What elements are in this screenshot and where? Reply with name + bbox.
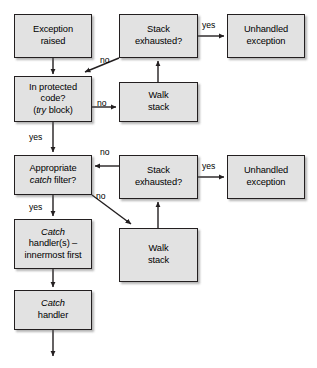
node-catch-handlers-innermost: Catchhandler(s) –innermost first <box>14 219 92 269</box>
node-label: Unhandledexception <box>242 24 290 47</box>
node-exception-raised: Exceptionraised <box>14 14 92 58</box>
node-stack-exhausted-1: Stackexhausted? <box>119 14 198 58</box>
edge-label-no-stack2-filter: no <box>100 148 110 157</box>
edge-label-yes-filter-catch: yes <box>29 203 42 212</box>
edge-label-no-stack1-protected: no <box>100 56 110 65</box>
node-walk-stack-2: Walkstack <box>119 228 198 282</box>
node-label: Stackexhausted? <box>133 24 184 47</box>
node-label: In protectedcode?(try block) <box>27 82 79 117</box>
node-label: Stackexhausted? <box>133 165 184 188</box>
node-label: Walkstack <box>146 90 171 113</box>
node-in-protected-code: In protectedcode?(try block) <box>14 76 92 122</box>
edge-label-yes-protected-filter: yes <box>29 133 42 142</box>
edge-label-no-filter-walk2: no <box>96 192 106 201</box>
edge-label-yes-stack2-unhandled: yes <box>202 162 215 171</box>
node-label: Walkstack <box>146 243 171 266</box>
node-stack-exhausted-2: Stackexhausted? <box>119 155 198 199</box>
node-label: Appropriatecatch filter? <box>28 163 79 186</box>
node-label: Exceptionraised <box>31 24 75 47</box>
node-label: Catchhandler(s) –innermost first <box>23 227 84 262</box>
edge-label-yes-stack1-unhandled: yes <box>202 21 215 30</box>
node-label: Catchhandler <box>36 298 70 321</box>
node-walk-stack-1: Walkstack <box>119 82 198 122</box>
edge-label-no-protected-walk: no <box>97 99 107 108</box>
node-unhandled-exception-1: Unhandledexception <box>227 14 305 58</box>
flowchart-canvas: Exceptionraised Stackexhausted? Unhandle… <box>0 0 317 368</box>
node-appropriate-catch-filter: Appropriatecatch filter? <box>14 155 92 195</box>
node-unhandled-exception-2: Unhandledexception <box>227 155 305 199</box>
node-label: Unhandledexception <box>242 165 290 188</box>
node-catch-handler: Catchhandler <box>14 290 92 330</box>
